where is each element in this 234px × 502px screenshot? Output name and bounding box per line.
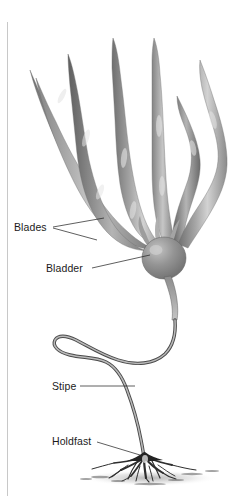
label-holdfast: Holdfast — [52, 435, 140, 455]
blades-group — [30, 38, 227, 252]
bladder-neck — [164, 276, 178, 320]
holdfast-group — [80, 452, 219, 486]
label-blades-leader-2 — [53, 228, 97, 240]
kelp-diagram-svg: Blades Bladder Stipe Holdfast — [0, 0, 234, 502]
label-holdfast-leader — [97, 442, 140, 455]
kelp-anatomy-figure: Blades Bladder Stipe Holdfast — [0, 0, 234, 502]
bladder-bulb — [142, 237, 186, 279]
holdfast-gap — [142, 455, 148, 463]
label-stipe-text: Stipe — [52, 380, 76, 392]
label-blades-leader-1 — [53, 218, 104, 227]
label-bladder-text: Bladder — [46, 262, 83, 274]
label-holdfast-text: Holdfast — [52, 435, 91, 447]
label-blades: Blades — [14, 218, 104, 240]
blade-5 — [152, 38, 176, 246]
label-bladder-leader — [92, 255, 150, 268]
bladder-group — [142, 237, 186, 320]
label-bladder: Bladder — [46, 255, 150, 274]
bladder-highlight — [150, 245, 163, 255]
label-blades-text: Blades — [14, 221, 47, 233]
